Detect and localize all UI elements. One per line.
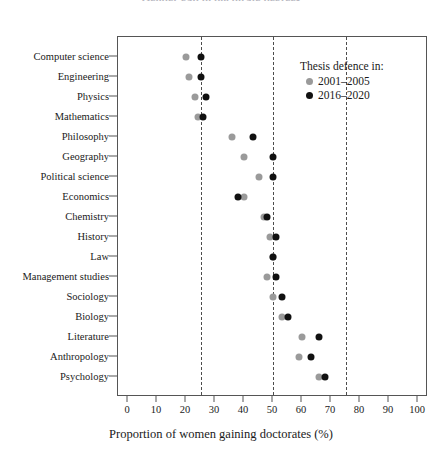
x-axis-tick <box>156 396 157 402</box>
x-axis-tick <box>330 396 331 402</box>
data-point <box>200 114 207 121</box>
data-point <box>264 274 271 281</box>
y-axis-tick <box>109 176 117 177</box>
y-axis-tick <box>109 316 117 317</box>
data-point <box>316 334 323 341</box>
y-axis-label: Engineering <box>58 71 109 82</box>
x-axis-tick-label: 80 <box>354 404 365 415</box>
data-point <box>183 54 190 61</box>
y-axis-label: Geography <box>62 151 109 162</box>
y-axis-category-labels: Computer scienceEngineeringPhysicsMathem… <box>0 36 112 396</box>
y-axis-label: Political science <box>40 171 109 182</box>
data-point <box>197 54 204 61</box>
x-axis-tick <box>272 396 273 402</box>
data-point <box>270 154 277 161</box>
y-axis-tick <box>109 256 117 257</box>
data-point <box>307 354 314 361</box>
legend-swatch-black-dot-icon <box>306 92 313 99</box>
x-axis-tick <box>243 396 244 402</box>
data-point <box>191 94 198 101</box>
x-axis-tick <box>301 396 302 402</box>
y-axis-tick <box>109 196 117 197</box>
gridline-25 <box>201 37 202 395</box>
legend-swatch-gray-dot-icon <box>306 78 313 85</box>
data-point <box>270 254 277 261</box>
data-point <box>185 74 192 81</box>
y-axis-tick <box>109 76 117 77</box>
x-axis-tick-label: 40 <box>238 404 249 415</box>
y-axis-tick <box>109 216 117 217</box>
y-axis-tick <box>109 336 117 337</box>
legend-title: Thesis defence in: <box>300 60 384 72</box>
data-point <box>255 174 262 181</box>
data-point <box>284 314 291 321</box>
data-point <box>235 194 242 201</box>
y-axis-label: Chemistry <box>65 211 109 222</box>
x-axis-tick-label: 100 <box>409 404 425 415</box>
y-axis-label: Law <box>90 251 109 262</box>
y-axis-label: Philosophy <box>62 131 109 142</box>
data-point <box>264 214 271 221</box>
x-axis-tick <box>185 396 186 402</box>
data-point <box>278 294 285 301</box>
y-axis-label: Physics <box>77 91 109 102</box>
x-axis-tick <box>417 396 418 402</box>
y-axis-label: Mathematics <box>55 111 109 122</box>
data-point <box>272 234 279 241</box>
data-point <box>249 134 256 141</box>
legend-item-2001-2005: 2001–2005 <box>306 75 384 87</box>
y-axis-label: Economics <box>62 191 109 202</box>
y-axis-tick <box>109 116 117 117</box>
y-axis-label: Psychology <box>60 371 109 382</box>
x-axis-tick-label: 90 <box>383 404 394 415</box>
legend-label: 2001–2005 <box>318 75 370 87</box>
legend-item-2016-2020: 2016–2020 <box>306 89 384 101</box>
y-axis-tick <box>109 276 117 277</box>
legend: Thesis defence in: 2001–2005 2016–2020 <box>300 60 384 103</box>
y-axis-label: Computer science <box>33 51 109 62</box>
data-point <box>197 74 204 81</box>
legend-label: 2016–2020 <box>318 89 370 101</box>
y-axis-tick <box>109 356 117 357</box>
y-axis-label: Anthropology <box>50 351 109 362</box>
data-point <box>322 374 329 381</box>
y-axis-tick <box>109 376 117 377</box>
data-point <box>241 154 248 161</box>
y-axis-label: Literature <box>68 331 109 342</box>
x-axis-tick-label: 70 <box>325 404 336 415</box>
x-axis-tick-label: 0 <box>124 404 129 415</box>
x-axis-tick <box>388 396 389 402</box>
chart-title: Gender gap in doctorate degrees <box>0 0 442 1</box>
data-point <box>272 274 279 281</box>
gridline-50 <box>273 37 274 395</box>
x-axis-tick-label: 10 <box>151 404 162 415</box>
y-axis-label: Sociology <box>66 291 109 302</box>
scatter-chart: Gender gap in doctorate degrees Computer… <box>0 0 442 460</box>
y-axis-tick <box>109 136 117 137</box>
x-axis-tick <box>359 396 360 402</box>
x-axis-tick-label: 60 <box>296 404 307 415</box>
x-axis-tick-label: 30 <box>209 404 220 415</box>
data-point <box>229 134 236 141</box>
data-point <box>296 354 303 361</box>
y-axis-label: Management studies <box>22 271 109 282</box>
y-axis-label: History <box>78 231 110 242</box>
x-axis-tick-label: 20 <box>180 404 191 415</box>
y-axis-tick <box>109 236 117 237</box>
x-axis-tick-label: 50 <box>267 404 278 415</box>
data-point <box>270 294 277 301</box>
y-axis-tick <box>109 156 117 157</box>
x-axis-tick <box>127 396 128 402</box>
y-axis-tick <box>109 96 117 97</box>
y-axis-label: Biology <box>75 311 109 322</box>
data-point <box>203 94 210 101</box>
y-axis-tick <box>109 56 117 57</box>
data-point <box>299 334 306 341</box>
x-axis-title: Proportion of women gaining doctorates (… <box>0 427 442 442</box>
data-point <box>270 174 277 181</box>
y-axis-tick <box>109 296 117 297</box>
x-axis-tick <box>214 396 215 402</box>
